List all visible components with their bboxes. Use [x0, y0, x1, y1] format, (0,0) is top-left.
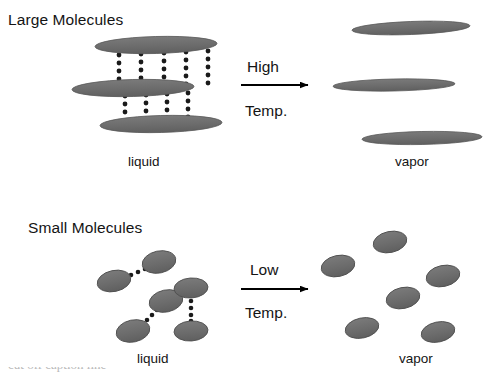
small-molecule: [173, 277, 208, 299]
cut-off-caption-row: cut off caption line: [0, 367, 497, 376]
small-liquid-group: [95, 248, 208, 346]
small-molecule: [319, 252, 357, 280]
large-vapor-group: [333, 19, 482, 146]
large-molecule-disc: [72, 78, 194, 98]
small-molecule: [343, 315, 380, 342]
small-molecule: [371, 228, 409, 256]
small-molecule: [424, 262, 462, 290]
molecule-diagram-artwork: [0, 0, 497, 376]
large-molecule-disc: [362, 130, 482, 146]
figure-container: Large Molecules High Temp. liquid vapor …: [0, 0, 497, 376]
large-molecule-disc: [352, 19, 470, 37]
small-molecule: [140, 248, 178, 277]
small-molecule: [419, 319, 456, 346]
small-vapor-group: [319, 228, 462, 345]
large-molecule-disc: [95, 35, 217, 55]
small-molecule: [95, 267, 133, 295]
bond-dots-vertical: [189, 299, 194, 324]
small-molecule: [384, 284, 422, 312]
cut-off-caption-text: cut off caption line: [8, 367, 106, 373]
large-molecule-disc: [100, 114, 222, 134]
large-molecule-disc: [333, 78, 455, 93]
large-liquid-group: [72, 35, 222, 134]
small-molecule: [173, 320, 208, 342]
